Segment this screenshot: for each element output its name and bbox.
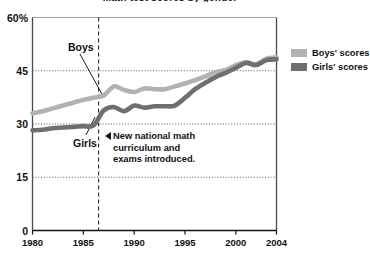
legend-item-girls[interactable]: Girls' scores	[291, 62, 370, 72]
x-axis-tick-label: 1995	[165, 237, 205, 248]
y-axis-tick-label: 60%	[0, 12, 28, 24]
series-label-girls: Girls	[73, 137, 97, 149]
x-axis-tick-label: 2004	[257, 237, 297, 248]
legend-swatch-boys	[291, 49, 307, 57]
x-axis-tick-label: 1985	[63, 237, 103, 248]
y-axis-tick-label: 0	[0, 225, 28, 237]
annotation-line-3: exams introduced.	[113, 154, 235, 166]
x-axis-tick-label: 1980	[13, 237, 53, 248]
y-axis-tick-label: 30	[0, 118, 28, 130]
legend-label-boys: Boys' scores	[312, 48, 370, 58]
series-label-boys: Boys	[68, 41, 94, 53]
x-axis-tick-label: 1990	[114, 237, 154, 248]
x-axis-tick-label: 2000	[216, 237, 256, 248]
annotation-line-2: curriculum and	[113, 143, 235, 155]
legend-item-boys[interactable]: Boys' scores	[291, 48, 370, 58]
y-axis-tick-label: 15	[0, 171, 28, 183]
annotation-callout: New national math curriculum and exams i…	[113, 131, 235, 166]
annotation-line-1: New national math	[113, 131, 235, 143]
y-axis-tick-label: 45	[0, 65, 28, 77]
legend: Boys' scoresGirls' scores	[291, 48, 370, 76]
data-series	[33, 57, 277, 130]
legend-swatch-girls	[291, 63, 307, 71]
left-triangle-icon	[105, 132, 111, 140]
chart-root: Math test scores by gender 015304560% 19…	[0, 0, 370, 261]
legend-label-girls: Girls' scores	[312, 62, 368, 72]
